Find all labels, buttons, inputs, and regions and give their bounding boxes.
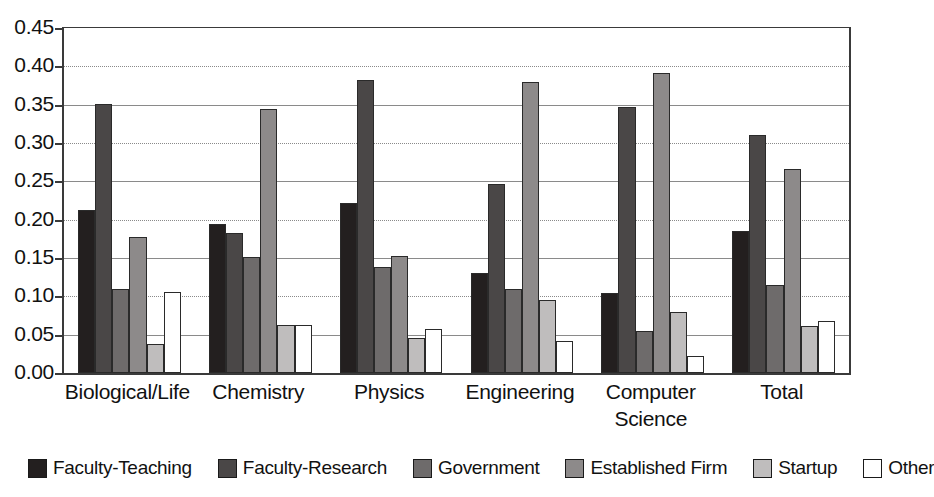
bars-layer xyxy=(64,28,849,373)
x-axis-label: Physics xyxy=(324,378,455,405)
legend-swatch-icon xyxy=(753,459,772,478)
legend-item: Government xyxy=(413,457,540,479)
y-axis-tick xyxy=(55,220,64,222)
legend-label: Government xyxy=(438,457,540,479)
bar xyxy=(112,289,129,373)
y-axis-tick xyxy=(55,296,64,298)
bar xyxy=(164,292,181,373)
bar xyxy=(539,300,556,373)
y-tick-label: 0.45 xyxy=(14,15,54,39)
legend-swatch-icon xyxy=(413,459,432,478)
bar xyxy=(78,210,95,373)
bar xyxy=(277,325,294,373)
legend-label: Faculty-Research xyxy=(243,457,387,479)
bar xyxy=(636,331,653,373)
legend-swatch-icon xyxy=(565,459,584,478)
x-axis-labels: Biological/LifeChemistryPhysicsEngineeri… xyxy=(62,378,847,440)
bar xyxy=(556,341,573,373)
y-axis: 0.450.400.350.300.250.200.150.100.050.00 xyxy=(0,0,58,400)
legend-item: Faculty-Research xyxy=(218,457,387,479)
x-axis-label: Total xyxy=(716,378,847,405)
plot-area xyxy=(62,27,851,375)
y-axis-tick xyxy=(55,105,64,107)
x-axis-label: Engineering xyxy=(455,378,586,405)
bar xyxy=(425,329,442,373)
bar xyxy=(408,338,425,373)
bar xyxy=(653,73,670,373)
bar xyxy=(340,203,357,373)
bar xyxy=(801,326,818,373)
legend-item: Faculty-Teaching xyxy=(28,457,192,479)
y-axis-tick xyxy=(55,143,64,145)
legend-swatch-icon xyxy=(863,459,882,478)
y-axis-tick xyxy=(55,335,64,337)
bar xyxy=(505,289,522,373)
bar xyxy=(687,356,704,373)
legend-swatch-icon xyxy=(28,459,47,478)
legend-swatch-icon xyxy=(218,459,237,478)
y-tick-label: 0.25 xyxy=(14,168,54,192)
legend-item: Startup xyxy=(753,457,837,479)
bar xyxy=(129,237,146,373)
legend-item: Established Firm xyxy=(565,457,727,479)
bar xyxy=(732,231,749,373)
y-tick-label: 0.35 xyxy=(14,92,54,116)
bar xyxy=(670,312,687,373)
legend: Faculty-TeachingFaculty-ResearchGovernme… xyxy=(28,452,888,484)
y-tick-label: 0.15 xyxy=(14,245,54,269)
legend-label: Other xyxy=(888,457,934,479)
x-axis-label: Computer Science xyxy=(585,378,716,432)
y-axis-tick xyxy=(55,28,64,30)
bar xyxy=(95,104,112,373)
bar xyxy=(818,321,835,373)
legend-label: Faculty-Teaching xyxy=(53,457,192,479)
bar xyxy=(391,256,408,373)
x-axis-label: Biological/Life xyxy=(62,378,193,405)
bar xyxy=(784,169,801,373)
bar xyxy=(374,267,391,373)
bar xyxy=(749,135,766,373)
y-tick-label: 0.40 xyxy=(14,53,54,77)
bar xyxy=(601,293,618,373)
bar xyxy=(522,82,539,373)
bar xyxy=(147,344,164,373)
bar xyxy=(295,325,312,373)
y-axis-tick xyxy=(55,258,64,260)
y-axis-tick xyxy=(55,181,64,183)
bar xyxy=(209,224,226,374)
y-tick-label: 0.10 xyxy=(14,283,54,307)
y-axis-tick xyxy=(55,373,64,375)
y-axis-tick xyxy=(55,66,64,68)
y-tick-label: 0.20 xyxy=(14,207,54,231)
bar xyxy=(357,80,374,373)
bar xyxy=(226,233,243,373)
y-tick-label: 0.30 xyxy=(14,130,54,154)
legend-item: Other xyxy=(863,457,934,479)
x-axis-label: Chemistry xyxy=(193,378,324,405)
bar xyxy=(618,107,635,373)
bar xyxy=(766,285,783,373)
bar xyxy=(488,184,505,373)
y-tick-label: 0.00 xyxy=(14,360,54,384)
legend-label: Startup xyxy=(778,457,837,479)
bar xyxy=(471,273,488,373)
legend-label: Established Firm xyxy=(590,457,727,479)
y-tick-label: 0.05 xyxy=(14,322,54,346)
bar xyxy=(260,109,277,373)
bar xyxy=(243,257,260,373)
